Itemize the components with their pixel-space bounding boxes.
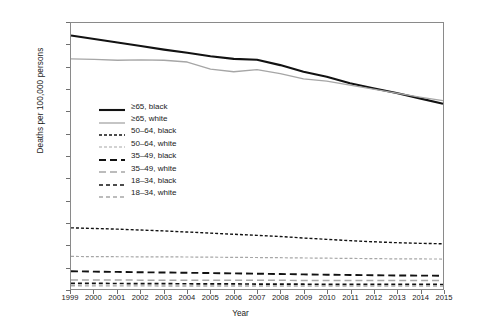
legend-item[interactable]: 50–64, white: [99, 137, 176, 149]
x-tick-mark: [234, 290, 235, 294]
legend-swatch-icon: [99, 101, 125, 111]
legend-item[interactable]: 50–64, black: [99, 125, 176, 137]
legend-swatch-icon: [99, 126, 125, 136]
legend-label: ≥65, white: [131, 114, 167, 123]
legend-swatch-icon: [99, 188, 125, 198]
figure-container: Deaths per 100,000 persons 05001,0001,50…: [0, 0, 481, 325]
legend-swatch-icon: [99, 151, 125, 161]
legend-label: 50–64, white: [131, 139, 176, 148]
x-tick-mark: [93, 290, 94, 294]
series-line: [71, 283, 443, 284]
legend-item[interactable]: 35–49, white: [99, 162, 176, 174]
x-tick-mark: [327, 290, 328, 294]
x-tick-mark: [210, 290, 211, 294]
legend-item[interactable]: ≥65, white: [99, 112, 176, 124]
legend-item[interactable]: 18–34, black: [99, 174, 176, 186]
series-line: [71, 228, 443, 244]
series-line: [71, 59, 443, 101]
x-tick-mark: [187, 290, 188, 294]
x-tick-mark: [280, 290, 281, 294]
legend-swatch-icon: [99, 114, 125, 124]
legend-label: 35–49, black: [131, 151, 176, 160]
x-tick-mark: [304, 290, 305, 294]
x-tick-mark: [117, 290, 118, 294]
series-line: [71, 280, 443, 281]
x-tick-mark: [374, 290, 375, 294]
legend-label: ≥65, black: [131, 102, 167, 111]
series-line: [71, 271, 443, 275]
legend-label: 18–34, white: [131, 188, 176, 197]
legend-swatch-icon: [99, 163, 125, 173]
legend-item[interactable]: 35–49, black: [99, 150, 176, 162]
legend: ≥65, black≥65, white50–64, black50–64, w…: [99, 100, 176, 199]
legend-label: 50–64, black: [131, 126, 176, 135]
x-tick-mark: [257, 290, 258, 294]
x-axis-title: Year: [0, 309, 481, 318]
x-tick-mark: [70, 290, 71, 294]
legend-item[interactable]: ≥65, black: [99, 100, 176, 112]
x-tick-mark: [140, 290, 141, 294]
x-tick-mark: [351, 290, 352, 294]
y-axis-title: Deaths per 100,000 persons: [36, 11, 45, 191]
legend-swatch-icon: [99, 176, 125, 186]
x-tick-label: 2015: [427, 294, 461, 302]
series-line: [71, 256, 443, 259]
x-tick-mark: [421, 290, 422, 294]
x-tick-mark: [397, 290, 398, 294]
legend-label: 18–34, black: [131, 176, 176, 185]
legend-label: 35–49, white: [131, 164, 176, 173]
legend-item[interactable]: 18–34, white: [99, 187, 176, 199]
legend-swatch-icon: [99, 138, 125, 148]
x-tick-mark: [444, 290, 445, 294]
x-tick-mark: [164, 290, 165, 294]
